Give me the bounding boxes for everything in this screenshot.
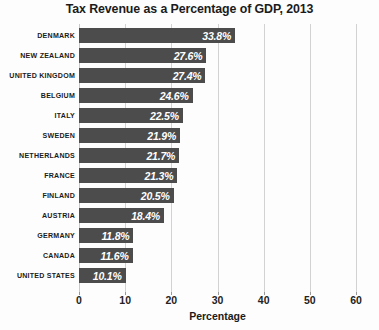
bar-row: 27.4% [79, 66, 356, 86]
x-tick-label: 40 [244, 294, 284, 306]
bar: 11.8% [79, 228, 133, 243]
x-tick-label: 30 [198, 294, 238, 306]
category-axis-labels: DENMARKNEW ZEALANDUNITED KINGDOMBELGIUMI… [0, 24, 75, 292]
bar-value-label: 18.4% [131, 210, 160, 222]
bar-row: 24.6% [79, 86, 356, 106]
bar-value-label: 24.6% [160, 90, 189, 102]
bar-row: 33.8% [79, 26, 356, 46]
bar-value-label: 21.7% [146, 150, 175, 162]
bar-value-label: 27.6% [174, 50, 203, 62]
bar-row: 10.1% [79, 266, 356, 286]
bar: 20.5% [79, 188, 174, 203]
bar-value-label: 21.3% [145, 170, 174, 182]
bar: 27.6% [79, 48, 206, 63]
bar: 10.1% [79, 268, 126, 283]
bar-row: 21.9% [79, 126, 356, 146]
bar: 24.6% [79, 88, 193, 103]
x-tick-label: 10 [105, 294, 145, 306]
bar-value-label: 10.1% [93, 270, 122, 282]
x-tick-label: 50 [290, 294, 330, 306]
category-label: AUSTRIA [5, 206, 75, 226]
category-label: FRANCE [5, 166, 75, 186]
bar: 11.6% [79, 248, 133, 263]
bar-value-label: 33.8% [202, 30, 231, 42]
bar-row: 21.3% [79, 166, 356, 186]
x-axis-tick-labels: 0102030405060 [0, 294, 379, 310]
chart-title: Tax Revenue as a Percentage of GDP, 2013 [0, 2, 379, 16]
bar: 18.4% [79, 208, 164, 223]
x-tick-mark [171, 292, 172, 295]
bar-row: 11.6% [79, 246, 356, 266]
x-tick-label: 0 [59, 294, 99, 306]
bar: 22.5% [79, 108, 183, 123]
category-label: SWEDEN [5, 126, 75, 146]
category-label: ITALY [5, 106, 75, 126]
bar-row: 21.7% [79, 146, 356, 166]
bar: 33.8% [79, 28, 235, 43]
x-tick-mark [125, 292, 126, 295]
x-tick-mark [310, 292, 311, 295]
gridline-60 [356, 24, 357, 292]
chart-container: Tax Revenue as a Percentage of GDP, 2013… [0, 0, 379, 330]
bar-value-label: 21.9% [147, 130, 176, 142]
category-label: DENMARK [5, 26, 75, 46]
x-tick-label: 20 [151, 294, 191, 306]
bar-row: 11.8% [79, 226, 356, 246]
category-label: NEW ZEALAND [5, 46, 75, 66]
bar-value-label: 20.5% [141, 190, 170, 202]
bar-value-label: 11.8% [101, 230, 129, 242]
x-tick-mark [356, 292, 357, 295]
x-tick-mark [218, 292, 219, 295]
plot-area: 33.8%27.6%27.4%24.6%22.5%21.9%21.7%21.3%… [79, 24, 356, 292]
x-tick-mark [79, 292, 80, 295]
bar-value-label: 11.6% [101, 250, 129, 262]
bar: 21.3% [79, 168, 177, 183]
bar: 21.9% [79, 128, 180, 143]
category-label: UNITED KINGDOM [5, 66, 75, 86]
bar: 21.7% [79, 148, 179, 163]
category-label: NETHERLANDS [5, 146, 75, 166]
bar: 27.4% [79, 68, 205, 83]
category-label: BELGIUM [5, 86, 75, 106]
x-axis-label: Percentage [79, 310, 356, 322]
bar-row: 27.6% [79, 46, 356, 66]
category-label: FINLAND [5, 186, 75, 206]
bars-layer: 33.8%27.6%27.4%24.6%22.5%21.9%21.7%21.3%… [79, 24, 356, 292]
bar-row: 22.5% [79, 106, 356, 126]
bar-row: 18.4% [79, 206, 356, 226]
x-tick-mark [264, 292, 265, 295]
x-tick-label: 60 [336, 294, 376, 306]
category-label: CANADA [5, 246, 75, 266]
bar-value-label: 22.5% [150, 110, 179, 122]
category-label: GERMANY [5, 226, 75, 246]
bar-row: 20.5% [79, 186, 356, 206]
bar-value-label: 27.4% [173, 70, 202, 82]
category-label: UNITED STATES [5, 266, 75, 286]
